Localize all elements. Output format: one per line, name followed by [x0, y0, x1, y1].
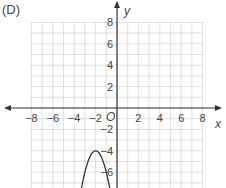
y-tick-label: 6: [107, 38, 113, 50]
origin-label: O: [106, 110, 115, 124]
y-axis-label: y: [123, 4, 131, 18]
x-axis-label: x: [214, 117, 222, 131]
axes: yxO: [4, 1, 222, 188]
y-tick-label: −2: [100, 123, 113, 135]
coordinate-plane: yxO −8−6−4−224688642−2−4−6: [0, 0, 226, 188]
x-tick-label: 6: [178, 112, 184, 124]
x-tick-label: 4: [157, 112, 163, 124]
x-tick-label: −2: [89, 112, 102, 124]
x-axis-left-arrow-icon: [4, 105, 11, 111]
y-tick-label: 4: [107, 59, 113, 71]
x-tick-label: 8: [200, 112, 206, 124]
x-tick-label: 2: [135, 112, 141, 124]
y-tick-label: 8: [107, 16, 113, 28]
x-tick-label: −8: [25, 112, 38, 124]
x-tick-label: −6: [47, 112, 60, 124]
y-tick-label: 2: [107, 81, 113, 93]
y-tick-label: −4: [100, 145, 113, 157]
x-axis-right-arrow-icon: [215, 105, 222, 111]
x-tick-label: −4: [68, 112, 81, 124]
y-axis-up-arrow-icon: [114, 1, 120, 8]
